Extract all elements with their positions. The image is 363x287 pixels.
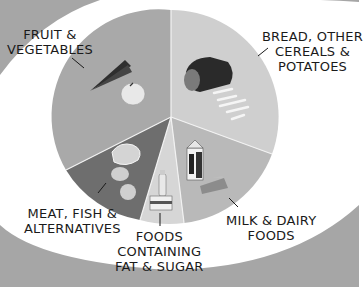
label-line: ALTERNATIVES <box>24 221 121 236</box>
label-line: CEREALS & <box>262 44 363 59</box>
label-line: MILK & DAIRY <box>226 213 316 228</box>
cake-icon <box>150 196 172 210</box>
apple-icon <box>121 83 145 105</box>
label-line: FOODS <box>115 229 203 244</box>
label-line: FRUIT & <box>7 27 93 42</box>
label-line: VEGETABLES <box>7 42 93 57</box>
label-line: FOODS <box>226 228 316 243</box>
label-bread-cereals-potatoes: BREAD, OTHER CEREALS & POTATOES <box>262 29 363 74</box>
label-line: BREAD, OTHER <box>262 29 363 44</box>
label-line: MEAT, FISH & <box>24 206 121 221</box>
label-line: FAT & SUGAR <box>115 259 203 274</box>
label-fruit-vegetables: FRUIT & VEGETABLES <box>7 27 93 57</box>
label-fat-sugar: FOODS CONTAINING FAT & SUGAR <box>115 229 203 274</box>
bottle-icon <box>159 170 166 196</box>
label-line: POTATOES <box>262 59 363 74</box>
milk-carton-icon <box>187 140 203 180</box>
label-meat-fish-alternatives: MEAT, FISH & ALTERNATIVES <box>24 206 121 236</box>
background-swoosh-top-right <box>250 0 359 2</box>
label-milk-dairy: MILK & DAIRY FOODS <box>226 213 316 243</box>
steak-icon <box>112 144 140 165</box>
label-line: CONTAINING <box>115 244 203 259</box>
